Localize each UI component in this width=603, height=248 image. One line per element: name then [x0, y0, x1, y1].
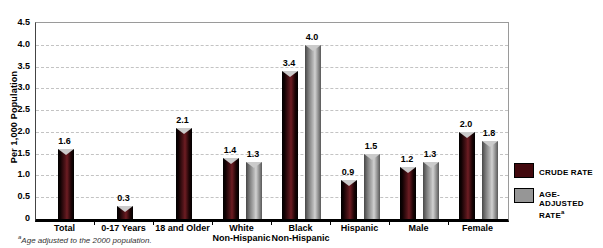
bar-crude-rate [176, 128, 192, 219]
crude-rate-swatch-icon [514, 163, 534, 178]
bar-top-bevel [117, 206, 133, 212]
bar-top-bevel [364, 154, 380, 160]
x-axis-tick [330, 221, 331, 225]
bar-crude-rate [117, 206, 133, 219]
bar-value-label: 0.9 [333, 167, 363, 177]
y-tick-label: 4.5 [4, 18, 30, 27]
bar-top-bevel [58, 149, 74, 155]
bar-crude-rate [223, 158, 239, 219]
x-axis-tick [389, 221, 390, 225]
y-tick-label: 2.0 [4, 127, 30, 136]
y-tick-label: 0.5 [4, 192, 30, 201]
bar-crude-rate [282, 71, 298, 219]
bar-value-label: 2.1 [168, 115, 198, 125]
bar-age-adjusted-rate [482, 141, 498, 219]
bar-value-label: 1.6 [50, 136, 80, 146]
y-tick-label: 1.0 [4, 170, 30, 179]
bar-top-bevel [400, 167, 416, 173]
bar-age-adjusted-rate [305, 45, 321, 219]
y-tick-label: 2.5 [4, 105, 30, 114]
y-tick-label: 3.0 [4, 83, 30, 92]
y-tick-label: 1.5 [4, 149, 30, 158]
bar-top-bevel [341, 180, 357, 186]
legend-item-age-adjusted: AGE-ADJUSTED RATEa [514, 188, 602, 220]
gridline [36, 132, 508, 133]
gridline [36, 45, 508, 46]
bar-top-bevel [176, 128, 192, 134]
gridline [36, 110, 508, 111]
bar-top-bevel [482, 141, 498, 147]
legend-item-crude: CRUDE RATE [514, 163, 602, 178]
bar-value-label: 1.3 [238, 149, 268, 159]
bar-value-label: 1.8 [474, 128, 504, 138]
bar-top-bevel [305, 45, 321, 51]
x-category-label: Female [438, 223, 518, 233]
x-axis-tick [212, 221, 213, 225]
y-tick-label: 3.5 [4, 62, 30, 71]
bar-crude-rate [400, 167, 416, 219]
plot-area [35, 22, 509, 222]
bar-age-adjusted-rate [423, 162, 439, 219]
bar-value-label: 4.0 [297, 32, 327, 42]
x-axis-tick [94, 221, 95, 225]
legend: CRUDE RATE AGE-ADJUSTED RATEa [514, 163, 602, 230]
bar-top-bevel [246, 162, 262, 168]
clipped-title: CRUDE AND AGE-ADJUSTED RATES PER 1,000 P… [1, 0, 421, 6]
chart-figure: CRUDE AND AGE-ADJUSTED RATES PER 1,000 P… [0, 0, 603, 248]
bar-top-bevel [459, 132, 475, 138]
x-axis-tick [271, 221, 272, 225]
age-adjusted-rate-swatch-icon [514, 188, 534, 203]
bar-crude-rate [459, 132, 475, 219]
bar-top-bevel [223, 158, 239, 164]
bar-top-bevel [282, 71, 298, 77]
legend-label-age-adjusted: AGE-ADJUSTED RATEa [539, 188, 602, 220]
bar-value-label: 3.4 [274, 58, 304, 68]
bar-age-adjusted-rate [246, 162, 262, 219]
bar-value-label: 1.3 [415, 149, 445, 159]
bar-age-adjusted-rate [364, 154, 380, 219]
gridline [36, 67, 508, 68]
bar-value-label: 1.5 [356, 141, 386, 151]
bar-crude-rate [58, 149, 74, 219]
footnote: aAge adjusted to the 2000 population. [18, 234, 152, 245]
gridline [36, 88, 508, 89]
legend-label-crude: CRUDE RATE [539, 163, 593, 177]
y-tick-label: 4.0 [4, 40, 30, 49]
bar-value-label: 0.3 [109, 193, 139, 203]
bar-top-bevel [423, 162, 439, 168]
x-axis-tick [153, 221, 154, 225]
x-axis-tick [448, 221, 449, 225]
y-tick-label: 0 [4, 214, 30, 223]
bar-crude-rate [341, 180, 357, 219]
